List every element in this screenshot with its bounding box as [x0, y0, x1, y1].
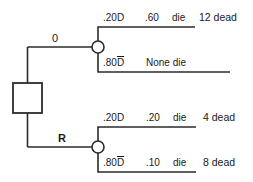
- event-upper-top: die: [172, 13, 185, 23]
- probability-lower-bottom: .80D: [103, 158, 124, 168]
- probability-upper-top: .20D: [103, 13, 124, 23]
- probability-upper-bottom: .80D: [103, 58, 124, 68]
- branch-label-lower: R: [58, 133, 66, 144]
- chance-node-upper: [92, 41, 104, 53]
- result-upper-top: 12 dead: [199, 12, 237, 23]
- probability-upper-bottom-value: .80: [103, 57, 117, 68]
- outcome-line-lower-top: [98, 127, 196, 141]
- conditional-lower-bottom: .10: [146, 158, 160, 168]
- decision-node-square: [13, 83, 42, 113]
- event-lower-bottom: die: [173, 158, 186, 168]
- probability-upper-bottom-overbar: D: [117, 57, 124, 68]
- event-upper-bottom: None die: [146, 58, 186, 68]
- probability-lower-bottom-overbar: D: [117, 157, 124, 168]
- decision-tree-diagram: 0 R .20D .60 die 12 dead .80D None die .…: [0, 0, 253, 182]
- conditional-lower-top: .20: [146, 113, 160, 123]
- tree-lines: [0, 0, 253, 182]
- outcome-line-upper-top: [98, 27, 195, 41]
- chance-node-lower: [92, 141, 104, 153]
- branch-label-upper: 0: [52, 33, 58, 44]
- probability-lower-top: .20D: [103, 113, 124, 123]
- conditional-upper-top: .60: [145, 13, 159, 23]
- result-lower-bottom: 8 dead: [203, 157, 235, 168]
- event-lower-top: die: [173, 113, 186, 123]
- probability-lower-bottom-value: .80: [103, 157, 117, 168]
- result-lower-top: 4 dead: [203, 112, 235, 123]
